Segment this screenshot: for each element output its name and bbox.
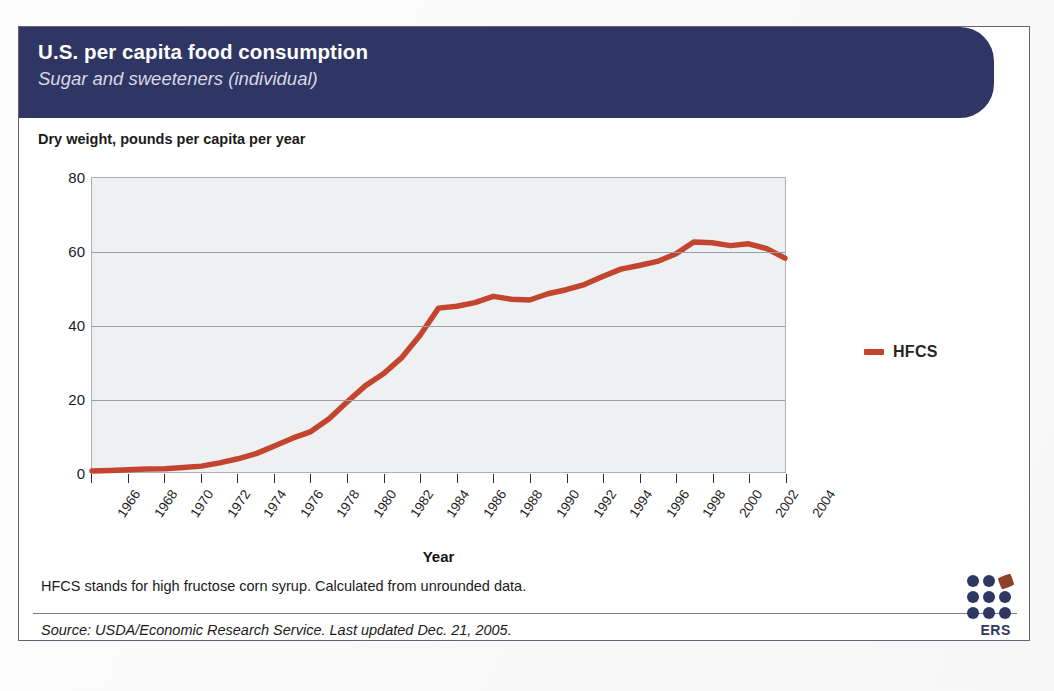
x-tick-label-1972: 1972	[224, 487, 253, 520]
plot-wrapper: 020406080 196619681970197219741976197819…	[19, 27, 1031, 642]
chart-frame: U.S. per capita food consumption Sugar a…	[18, 26, 1030, 641]
x-tick-mark-1982	[384, 474, 385, 483]
x-tick-label-2002: 2002	[773, 487, 802, 520]
x-tick-label-1984: 1984	[443, 487, 472, 520]
x-tick-mark-1992	[567, 474, 568, 483]
gridline-y-20	[92, 400, 785, 401]
x-tick-label-1994: 1994	[626, 487, 655, 520]
ers-logo-dot	[967, 607, 979, 619]
y-tick-label-20: 20	[51, 391, 85, 408]
legend-label-hfcs: HFCS	[893, 343, 938, 361]
x-tick-label-1986: 1986	[480, 487, 509, 520]
x-tick-mark-2000	[713, 474, 714, 483]
x-axis-tick-marks	[91, 474, 786, 484]
ers-logo-dot	[999, 591, 1011, 603]
x-tick-label-1992: 1992	[590, 487, 619, 520]
ers-logo-dot	[967, 591, 979, 603]
plot-area	[91, 177, 786, 473]
gridline-y-40	[92, 326, 785, 327]
x-tick-mark-1986	[457, 474, 458, 483]
x-axis-tick-labels: 1966196819701972197419761978198019821984…	[91, 487, 786, 547]
series-layer	[92, 178, 785, 472]
x-tick-mark-2004	[786, 474, 787, 483]
x-tick-label-1998: 1998	[699, 487, 728, 520]
series-line-hfcs	[92, 242, 785, 471]
chart-legend: HFCS	[864, 343, 938, 361]
x-tick-mark-1970	[164, 474, 165, 483]
ers-logo-dot	[983, 591, 995, 603]
legend-swatch-hfcs	[864, 349, 884, 355]
x-tick-mark-1984	[420, 474, 421, 483]
ers-logo-dot	[983, 607, 995, 619]
x-tick-label-2004: 2004	[809, 487, 838, 520]
x-tick-label-1970: 1970	[187, 487, 216, 520]
screenshot-page: U.S. per capita food consumption Sugar a…	[0, 0, 1054, 691]
x-tick-mark-1966	[91, 474, 92, 483]
x-tick-label-1980: 1980	[370, 487, 399, 520]
x-tick-mark-1998	[676, 474, 677, 483]
x-tick-label-1966: 1966	[114, 487, 143, 520]
ers-logo-dot	[983, 575, 995, 587]
x-tick-mark-1980	[347, 474, 348, 483]
x-tick-mark-1972	[201, 474, 202, 483]
x-tick-label-1996: 1996	[663, 487, 692, 520]
chart-source: Source: USDA/Economic Research Service. …	[41, 622, 512, 638]
y-tick-label-60: 60	[51, 243, 85, 260]
x-tick-label-2000: 2000	[736, 487, 765, 520]
x-tick-label-1968: 1968	[151, 487, 180, 520]
chart-footnote: HFCS stands for high fructose corn syrup…	[41, 578, 526, 594]
x-tick-label-1974: 1974	[261, 487, 290, 520]
ers-logo-dot	[999, 607, 1011, 619]
ers-logo-dot-grid	[949, 575, 1011, 619]
x-tick-mark-1988	[493, 474, 494, 483]
x-tick-mark-1994	[603, 474, 604, 483]
x-tick-mark-1996	[640, 474, 641, 483]
x-tick-mark-2002	[749, 474, 750, 483]
x-tick-mark-1974	[237, 474, 238, 483]
x-axis-title: Year	[91, 548, 786, 565]
x-tick-mark-1968	[128, 474, 129, 483]
x-tick-label-1988: 1988	[517, 487, 546, 520]
ers-logo-text: ERS	[949, 622, 1011, 638]
ers-logo: ERS	[949, 575, 1011, 638]
y-tick-label-80: 80	[51, 169, 85, 186]
x-tick-label-1990: 1990	[553, 487, 582, 520]
x-tick-mark-1976	[274, 474, 275, 483]
x-tick-label-1976: 1976	[297, 487, 326, 520]
x-tick-mark-1978	[310, 474, 311, 483]
x-tick-label-1982: 1982	[407, 487, 436, 520]
ers-logo-dot	[967, 575, 979, 587]
x-tick-label-1978: 1978	[334, 487, 363, 520]
source-divider	[33, 613, 1017, 614]
y-axis-tick-labels: 020406080	[45, 177, 85, 473]
y-tick-label-0: 0	[51, 465, 85, 482]
y-tick-label-40: 40	[51, 317, 85, 334]
gridline-y-60	[92, 252, 785, 253]
x-tick-mark-1990	[530, 474, 531, 483]
